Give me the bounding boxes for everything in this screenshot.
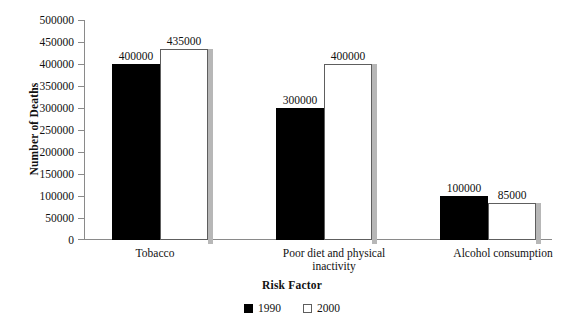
legend-label: 2000 (317, 303, 340, 315)
x-axis-title: Risk Factor (0, 279, 584, 291)
bar-shadow (372, 64, 377, 244)
x-axis-category-label-alcohol: Alcohol consumption (418, 247, 584, 260)
bar-value-label: 300000 (260, 95, 340, 107)
y-axis-tick-label: 450000 (40, 37, 75, 49)
bar-alcohol-2000[interactable] (488, 203, 536, 240)
y-axis-tick-label: 400000 (40, 59, 75, 71)
bar-tobacco-1990[interactable] (112, 64, 160, 240)
legend-item-1990[interactable]: 1990 (244, 303, 281, 315)
y-axis-tick-label: 150000 (40, 169, 75, 181)
bar-value-label: 435000 (144, 36, 224, 48)
x-axis-category-label-poor-diet: Poor diet and physical inactivity (249, 247, 419, 273)
bar-poor-diet-1990[interactable] (276, 108, 324, 240)
y-axis-tick-label: 50000 (45, 213, 74, 225)
bar-value-label: 400000 (308, 51, 388, 63)
y-axis-tick-label: 250000 (40, 125, 75, 137)
white-square-swatch-icon (303, 304, 312, 313)
bar-value-label: 400000 (96, 51, 176, 63)
plot-area: 400000 435000 300000 400000 100000 85000 (84, 20, 552, 240)
x-axis-category-label-tobacco: Tobacco (90, 247, 220, 260)
bar-tobacco-2000[interactable] (160, 49, 208, 240)
bar-poor-diet-2000[interactable] (324, 64, 372, 240)
bar-shadow (536, 203, 541, 244)
y-axis-tick-label: 350000 (40, 81, 75, 93)
y-axis-tick-label: 0 (68, 235, 74, 247)
y-axis-tick-label: 200000 (40, 147, 75, 159)
legend-item-2000[interactable]: 2000 (303, 303, 340, 315)
y-axis-tick-label: 500000 (40, 15, 75, 27)
bar-shadow (208, 49, 213, 244)
legend-label: 1990 (258, 303, 281, 315)
bar-value-label: 85000 (476, 190, 548, 202)
chart-legend: 1990 2000 (0, 303, 584, 315)
bar-chart: Number of Deaths 500000 450000 400000 35… (0, 0, 584, 328)
y-axis-tick-label: 100000 (40, 191, 75, 203)
bar-alcohol-1990[interactable] (440, 196, 488, 240)
y-axis-tick-label: 300000 (40, 103, 75, 115)
black-square-swatch-icon (244, 304, 253, 313)
